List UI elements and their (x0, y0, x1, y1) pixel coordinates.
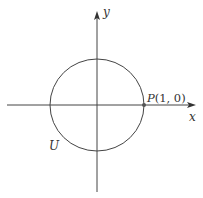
point-p-coords: (1, 0) (155, 91, 186, 105)
unit-circle-diagram: y x P(1, 0) U (0, 0, 203, 198)
point-p-marker (142, 103, 146, 107)
y-axis-label: y (102, 5, 110, 19)
x-axis-label: x (189, 110, 196, 124)
point-p-name: P (146, 91, 155, 105)
point-p-label: P(1, 0) (146, 91, 186, 105)
circle-label-u: U (49, 139, 60, 153)
